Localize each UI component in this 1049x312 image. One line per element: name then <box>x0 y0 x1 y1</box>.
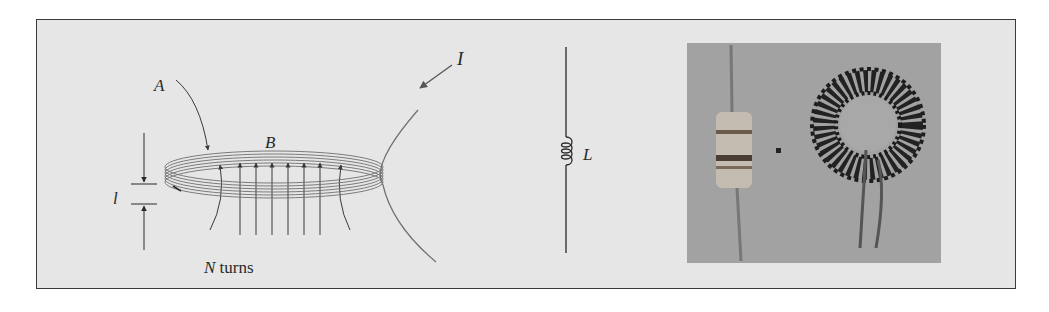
label-area: A <box>153 76 165 95</box>
label-current: I <box>456 48 465 69</box>
area-pointer <box>176 80 208 150</box>
field-lines <box>210 163 350 235</box>
label-inductance: L <box>582 145 592 164</box>
inductor-photo <box>687 43 941 263</box>
coil-diagram: A B I l N turns <box>113 48 465 277</box>
current-arrow <box>420 65 452 88</box>
label-length: l <box>113 189 118 208</box>
coil-turns-front <box>165 167 383 198</box>
scale-dot <box>776 148 781 153</box>
length-dimension <box>131 133 157 250</box>
lead-wire <box>380 110 436 262</box>
coil-turns-back <box>165 151 383 182</box>
inductor-symbol <box>562 47 573 253</box>
label-turns: N turns <box>203 258 254 277</box>
inductor-figure: A B I l N turns L <box>0 0 1049 312</box>
label-field: B <box>265 133 276 152</box>
